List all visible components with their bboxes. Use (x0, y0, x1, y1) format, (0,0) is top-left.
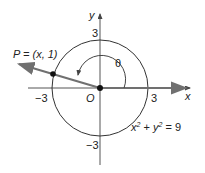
tick-neg-x: −3 (35, 92, 48, 104)
unit-circle-diagram: y x 3 −3 −3 3 O θ P = (x, 1) x2 + y2 = 9 (0, 0, 205, 173)
tick-pos-y: 3 (92, 27, 98, 39)
tick-pos-x: 3 (151, 92, 157, 104)
tick-neg-y: −3 (86, 139, 99, 151)
angle-label: θ (115, 57, 121, 69)
origin-label: O (86, 92, 95, 104)
circle-equation: x2 + y2 = 9 (130, 121, 181, 133)
x-axis-label: x (184, 90, 191, 102)
origin-point (97, 85, 103, 91)
y-axis-label: y (88, 9, 96, 21)
terminal-ray (19, 64, 100, 88)
point-p (50, 71, 56, 77)
point-label: P = (x, 1) (13, 48, 58, 60)
